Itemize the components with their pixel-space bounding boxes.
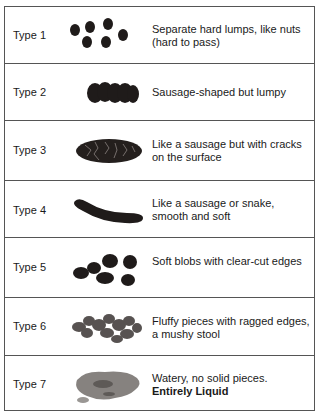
- description-text: Watery, no solid pieces.: [152, 372, 268, 384]
- chart-row-type-1: Type 1 Separate hard lumps, like nuts (h…: [5, 7, 314, 64]
- type-description: Sausage-shaped but lumpy: [152, 86, 312, 99]
- smooth-sausage-icon: [65, 193, 147, 227]
- type-label: Type 7: [13, 378, 46, 390]
- type-description: Fluffy pieces with ragged edges, a mushy…: [152, 315, 312, 341]
- type-description: Like a sausage but with cracks on the su…: [152, 138, 312, 164]
- chart-row-type-6: Type 6 Fluffy pieces with ragged edges, …: [5, 298, 314, 356]
- type-label: Type 1: [13, 29, 46, 41]
- lumpy-sausage-icon: [65, 78, 147, 108]
- mushy-pieces-icon: [65, 307, 147, 347]
- type-label: Type 5: [13, 261, 46, 273]
- type-label: Type 6: [13, 320, 46, 332]
- description-emphasis: Entirely Liquid: [152, 385, 312, 398]
- hard-lumps-icon: [65, 13, 147, 59]
- type-label: Type 3: [13, 144, 46, 156]
- cracked-sausage-icon: [65, 136, 147, 166]
- chart-row-type-4: Type 4 Like a sausage or snake, smooth a…: [5, 181, 314, 238]
- type-label: Type 2: [13, 86, 46, 98]
- type-label: Type 4: [13, 204, 46, 216]
- type-description: Watery, no solid pieces. Entirely Liquid: [152, 372, 312, 398]
- type-description: Soft blobs with clear-cut edges: [152, 255, 312, 268]
- liquid-icon: [65, 362, 147, 406]
- chart-row-type-2: Type 2 Sausage-shaped but lumpy: [5, 64, 314, 121]
- type-description: Like a sausage or snake, smooth and soft: [152, 197, 312, 223]
- chart-row-type-5: Type 5 Soft blobs with clear-cut edges: [5, 238, 314, 298]
- type-description: Separate hard lumps, like nuts (hard to …: [152, 23, 312, 49]
- chart-row-type-3: Type 3 Like a sausage but with cracks on…: [5, 121, 314, 181]
- soft-blobs-icon: [65, 248, 147, 288]
- chart-row-type-7: Type 7 Watery, no solid pieces. Entirely…: [5, 356, 314, 412]
- bristol-stool-chart: Type 1 Separate hard lumps, like nuts (h…: [4, 6, 315, 411]
